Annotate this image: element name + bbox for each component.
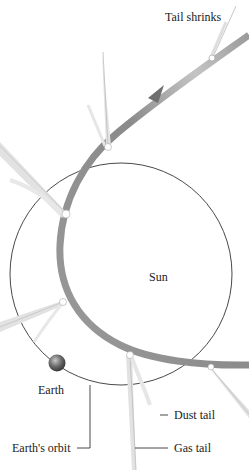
tail-shrinks-label: Tail shrinks [165,10,221,24]
comet-bottom [126,352,150,470]
gas-tail-label: Gas tail [174,441,211,455]
earth-icon [49,355,66,372]
earth-label: Earth [38,383,64,397]
dust-tail-label: Dust tail [174,408,215,422]
comet-left [0,299,67,343]
sun-label: Sun [149,270,168,284]
comet-orbit-diagram [0,0,249,470]
comet-orbit-path [60,35,249,365]
comet-upper-middle [88,52,112,151]
comet-upper-left [0,142,70,218]
earths-orbit-leader [77,385,90,448]
earths-orbit-label: Earth's orbit [12,441,70,455]
